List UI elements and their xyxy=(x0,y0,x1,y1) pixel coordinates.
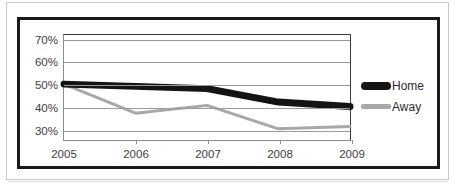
legend-swatch-home-icon xyxy=(361,82,391,90)
y-axis-tick-label: 50% xyxy=(35,79,58,91)
plot-area: 30%40%50%60%70%20052006200720082009 xyxy=(63,34,351,141)
x-axis-tick-label: 2006 xyxy=(123,148,149,160)
x-axis-tick-label: 2005 xyxy=(51,148,77,160)
x-axis-tick xyxy=(136,140,137,144)
page-bottom-divider xyxy=(8,181,448,182)
gridline xyxy=(64,131,350,132)
legend-item-away: Away xyxy=(361,96,424,117)
series-lines xyxy=(64,35,350,140)
gridline xyxy=(64,62,350,63)
chart-container: 30%40%50%60%70%20052006200720082009 Home… xyxy=(17,17,440,169)
gridline xyxy=(64,108,350,109)
x-axis-tick-label: 2008 xyxy=(267,148,293,160)
legend-label-away: Away xyxy=(392,100,421,114)
chart-body: 30%40%50%60%70%20052006200720082009 Home… xyxy=(20,20,437,166)
gridline xyxy=(64,85,350,86)
chart-legend: Home Away xyxy=(361,75,424,117)
x-axis-tick-label: 2007 xyxy=(195,148,221,160)
y-axis-tick-label: 60% xyxy=(35,56,58,68)
y-axis-tick-label: 30% xyxy=(35,125,58,137)
y-axis-tick-label: 40% xyxy=(35,102,58,114)
legend-label-home: Home xyxy=(392,79,424,93)
chart-screenshot: 30%40%50%60%70%20052006200720082009 Home… xyxy=(0,0,455,187)
legend-swatch-away-icon xyxy=(361,104,391,109)
x-axis-tick xyxy=(208,140,209,144)
gridline xyxy=(64,40,350,41)
x-axis-tick xyxy=(280,140,281,144)
x-axis-tick xyxy=(352,140,353,144)
legend-item-home: Home xyxy=(361,75,424,96)
y-axis-tick-label: 70% xyxy=(35,34,58,46)
x-axis-tick-label: 2009 xyxy=(339,148,365,160)
